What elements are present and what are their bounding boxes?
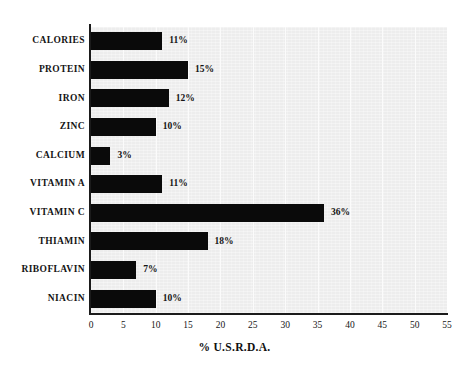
- bar-row: [91, 227, 447, 256]
- bar: [91, 147, 110, 165]
- bar-row: [91, 27, 447, 56]
- x-tick-label: 15: [173, 320, 203, 330]
- category-label: RIBOFLAVIN: [0, 264, 85, 274]
- value-label: 3%: [117, 150, 131, 160]
- value-label: 18%: [215, 236, 234, 246]
- category-label: CALORIES: [0, 35, 85, 45]
- bar-row: [91, 141, 447, 170]
- bar: [91, 89, 169, 107]
- value-label: 10%: [163, 121, 182, 131]
- bar: [91, 232, 208, 250]
- value-label: 11%: [169, 35, 187, 45]
- bar: [91, 261, 136, 279]
- x-tick-label: 50: [400, 320, 430, 330]
- bar: [91, 290, 156, 308]
- category-label: ZINC: [0, 121, 85, 131]
- x-tick-label: 45: [367, 320, 397, 330]
- value-label: 7%: [143, 264, 157, 274]
- value-label: 12%: [176, 93, 195, 103]
- value-label: 10%: [163, 293, 182, 303]
- bar-row: [91, 284, 447, 313]
- x-tick-label: 0: [76, 320, 106, 330]
- x-tick-label: 40: [335, 320, 365, 330]
- x-tick-label: 10: [141, 320, 171, 330]
- bar-row: [91, 113, 447, 142]
- x-tick-label: 5: [108, 320, 138, 330]
- x-tick-label: 35: [303, 320, 333, 330]
- bar-row: [91, 170, 447, 199]
- value-label: 11%: [169, 178, 187, 188]
- x-tick-label: 20: [205, 320, 235, 330]
- bar-row: [91, 56, 447, 85]
- bar: [91, 61, 188, 79]
- category-label: NIACIN: [0, 293, 85, 303]
- bar-row: [91, 199, 447, 228]
- x-tick-label: 30: [270, 320, 300, 330]
- category-label: IRON: [0, 93, 85, 103]
- category-label: CALCIUM: [0, 150, 85, 160]
- bar: [91, 204, 324, 222]
- category-label: VITAMIN C: [0, 207, 85, 217]
- bar: [91, 175, 162, 193]
- category-label: THIAMIN: [0, 236, 85, 246]
- x-tick-label: 25: [238, 320, 268, 330]
- bar-chart: CALORIESPROTEINIRONZINCCALCIUMVITAMIN AV…: [0, 0, 469, 371]
- category-label: VITAMIN A: [0, 178, 85, 188]
- value-label: 15%: [195, 64, 214, 74]
- x-tick-label: 55: [432, 320, 462, 330]
- bar-row: [91, 84, 447, 113]
- x-axis-line: [89, 313, 448, 315]
- y-axis-line: [89, 24, 91, 315]
- bar: [91, 32, 162, 50]
- x-axis-title: % U.S.R.D.A.: [0, 341, 469, 353]
- category-label: PROTEIN: [0, 64, 85, 74]
- value-label: 36%: [331, 207, 350, 217]
- bar: [91, 118, 156, 136]
